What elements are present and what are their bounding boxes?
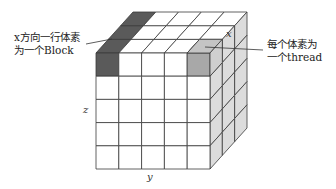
- block-row-front-voxel: [96, 53, 119, 76]
- front-voxel: [119, 146, 142, 169]
- thread-annotation: 每个体素为 一个thread: [267, 38, 322, 64]
- front-voxel: [164, 123, 187, 146]
- front-voxel: [164, 76, 187, 99]
- front-voxel: [119, 76, 142, 99]
- axis-label-z: z: [83, 104, 88, 115]
- front-voxel: [142, 76, 165, 99]
- front-voxel: [142, 99, 165, 122]
- front-voxel: [142, 123, 165, 146]
- front-voxel: [187, 123, 210, 146]
- axis-label-y: y: [147, 171, 153, 182]
- front-voxel: [164, 146, 187, 169]
- front-voxel: [96, 76, 119, 99]
- thread-annotation-line1: 每个体素为: [267, 38, 322, 51]
- front-voxel: [142, 53, 165, 76]
- front-voxel: [96, 99, 119, 122]
- block-annotation: x方向一行体素 为一个Block: [14, 31, 80, 57]
- voxel-cube: [96, 12, 247, 169]
- axis-label-x: x: [226, 28, 232, 39]
- front-voxel: [187, 146, 210, 169]
- block-annotation-line2: 为一个Block: [14, 44, 80, 57]
- front-voxel: [96, 123, 119, 146]
- thread-annotation-line2: 一个thread: [267, 51, 322, 64]
- front-voxel: [187, 76, 210, 99]
- front-voxel: [164, 53, 187, 76]
- front-voxel: [119, 53, 142, 76]
- front-voxel: [96, 146, 119, 169]
- front-voxel: [119, 99, 142, 122]
- front-voxel: [119, 123, 142, 146]
- front-voxel: [187, 99, 210, 122]
- front-voxel: [164, 99, 187, 122]
- front-voxel: [142, 146, 165, 169]
- thread-voxel-front: [187, 53, 210, 76]
- cuda-voxel-diagram: x方向一行体素 为一个Block 每个体素为 一个thread x y z: [0, 0, 336, 189]
- voxel-cube-figure: [0, 0, 336, 189]
- block-annotation-line1: x方向一行体素: [14, 31, 80, 44]
